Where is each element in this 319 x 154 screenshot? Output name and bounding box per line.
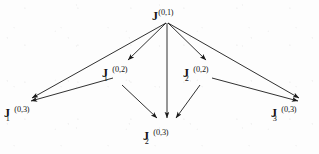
edge-J1_02-to-J1_03: [31, 78, 113, 101]
edges-group: [31, 23, 299, 118]
edge-J01-to-J1_03: [32, 23, 166, 98]
node-j-3-0-3-superscript: (0,3): [281, 105, 296, 114]
edge-J01-to-J3_03: [168, 23, 299, 98]
node-j-1-0-2-superscript: (0,2): [112, 65, 127, 74]
node-j-1-0-3-subscript: 1: [6, 114, 10, 123]
node-j-0-1-base: J: [152, 9, 158, 22]
node-j-2-0-3-superscript: (0,3): [153, 128, 168, 137]
node-j-2-0-2-subscript: 2: [185, 74, 189, 83]
node-j-1-0-2: J1(0,2): [102, 64, 128, 80]
diagram-canvas: J(0,1) J1(0,2) J2(0,2) J1(0,3) J2(0,3) J…: [0, 0, 319, 154]
node-j-2-0-2: J2(0,2): [183, 64, 209, 80]
node-j-2-0-3: J2(0,3): [143, 127, 169, 143]
edge-J2_02-to-J3_03: [212, 78, 298, 101]
node-j-3-0-3: J3(0,3): [271, 104, 297, 120]
node-j-0-1-superscript: (0,1): [158, 8, 173, 17]
node-j-0-1: J(0,1): [152, 7, 174, 23]
edge-J2_02-to-J2_03: [176, 85, 200, 118]
node-j-1-0-3-superscript: (0,3): [14, 105, 29, 114]
edge-J1_02-to-J2_03: [122, 85, 157, 118]
node-j-1-0-2-subscript: 1: [104, 74, 108, 83]
node-j-3-0-3-subscript: 3: [273, 114, 277, 123]
node-j-1-0-3: J1(0,3): [4, 104, 30, 120]
node-j-2-0-2-superscript: (0,2): [193, 65, 208, 74]
node-j-2-0-3-subscript: 2: [145, 137, 149, 146]
